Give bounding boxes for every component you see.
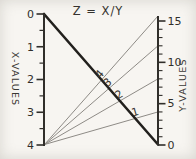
x-tick-label: 3 [27, 106, 34, 119]
x-tick-label: 2 [27, 73, 34, 86]
y-tick-label: 0 [168, 139, 175, 152]
y-tick-label: 15 [168, 15, 182, 28]
x-tick-label: 1 [27, 41, 34, 54]
z-line-1 [45, 112, 159, 145]
z-line-3 [45, 46, 159, 145]
z-label-1: 1 [130, 105, 140, 119]
z-label-3: 3 [101, 75, 115, 89]
y-tick-label: 10 [168, 56, 182, 69]
z-label-2: 2 [113, 87, 126, 102]
x-tick-label: 0 [27, 8, 34, 21]
nomogram-figure: Z = X/Y X-VALUES Y-VALUES 01234151050432… [0, 0, 196, 159]
z-line-2 [45, 79, 159, 145]
y-tick-label: 5 [168, 97, 175, 110]
x-tick-label: 4 [27, 139, 34, 152]
nomogram-canvas: 012341510504321 [0, 0, 196, 159]
